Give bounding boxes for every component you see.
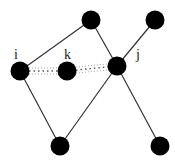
edges-layer — [20, 20, 160, 146]
graph-diagram: ikj — [0, 0, 175, 163]
edge-i-top — [20, 20, 91, 71]
node-label-j: j — [135, 47, 140, 62]
node-topright — [146, 11, 165, 30]
node-j — [108, 57, 127, 76]
node-i — [11, 62, 30, 81]
node-bottomleft — [51, 137, 70, 156]
node-k — [58, 62, 77, 81]
node-top — [82, 11, 101, 30]
node-label-k: k — [64, 47, 71, 62]
edge-i-bottomleft — [20, 71, 60, 146]
node-bottomright — [151, 137, 170, 156]
node-label-i: i — [14, 47, 18, 62]
edge-j-bottomright — [117, 66, 160, 146]
